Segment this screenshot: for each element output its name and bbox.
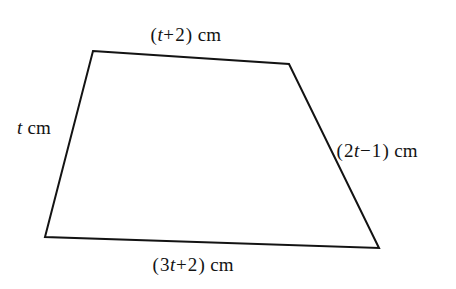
constant-top: 2	[175, 24, 186, 45]
coefficient-bottom: 3	[159, 254, 170, 275]
paren-close-top: )	[185, 24, 192, 45]
unit-bottom: cm	[210, 254, 233, 275]
paren-close-bottom: )	[198, 254, 205, 275]
constant-bottom: 2	[187, 254, 198, 275]
geometry-figure: (t+2)cm tcm (2t−1)cm (3t+2)cm	[0, 0, 456, 289]
side-label-left: tcm	[17, 118, 51, 137]
side-label-bottom: (3t+2)cm	[152, 255, 234, 274]
variable-t-left: t	[17, 117, 22, 138]
quadrilateral-outline	[45, 51, 379, 248]
unit-top: cm	[198, 24, 221, 45]
unit-right: cm	[394, 140, 417, 161]
operator-plus-top: +	[163, 24, 175, 45]
side-label-top: (t+2)cm	[150, 25, 221, 44]
coefficient-right: 2	[343, 140, 354, 161]
paren-close-right: )	[382, 140, 389, 161]
unit-left: cm	[27, 117, 50, 138]
operator-minus-right: −	[359, 140, 371, 161]
operator-plus-bottom: +	[175, 254, 187, 275]
side-label-right: (2t−1)cm	[336, 141, 418, 160]
constant-right: 1	[371, 140, 382, 161]
